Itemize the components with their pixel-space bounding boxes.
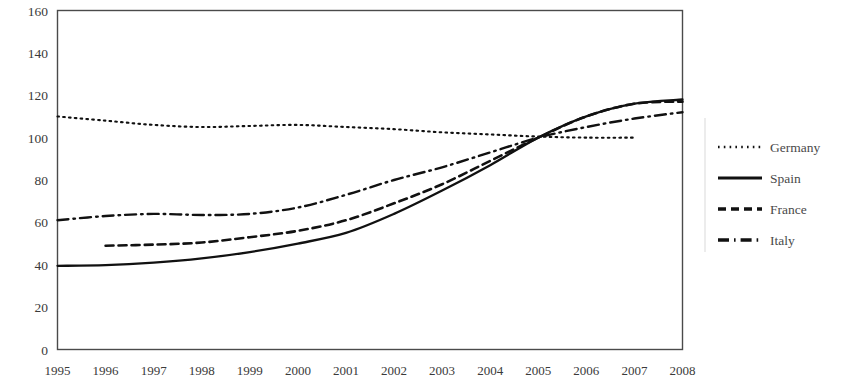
x-tick-label: 2008 — [670, 363, 696, 378]
line-chart: 160140120100806040200 199519961997199819… — [0, 0, 850, 392]
x-tick-label: 2001 — [333, 363, 359, 378]
y-tick-label: 120 — [28, 88, 49, 103]
chart-figure: 160140120100806040200 199519961997199819… — [0, 0, 850, 392]
y-tick-label: 80 — [35, 173, 49, 188]
y-tick-label: 40 — [35, 258, 49, 273]
x-tick-label: 2000 — [285, 363, 311, 378]
x-tick-label: 2006 — [573, 363, 600, 378]
y-tick-label: 140 — [28, 46, 49, 61]
x-tick-label: 2004 — [477, 363, 504, 378]
x-tick-label: 2005 — [525, 363, 551, 378]
x-tick-label: 2003 — [429, 363, 455, 378]
x-tick-label: 1995 — [45, 363, 71, 378]
y-tick-label: 0 — [41, 343, 48, 358]
x-tick-label: 2007 — [621, 363, 648, 378]
x-tick-label: 1998 — [189, 363, 215, 378]
legend-label-france: France — [770, 202, 807, 217]
x-tick-label: 1997 — [141, 363, 168, 378]
y-tick-label: 160 — [28, 4, 49, 19]
legend-label-germany: Germany — [770, 140, 820, 155]
y-tick-label: 60 — [35, 215, 49, 230]
x-tick-label: 1996 — [93, 363, 120, 378]
x-tick-label: 1999 — [237, 363, 263, 378]
y-tick-label: 20 — [35, 300, 49, 315]
y-tick-label: 100 — [28, 131, 49, 146]
legend-label-spain: Spain — [770, 171, 801, 186]
chart-background — [0, 0, 850, 392]
x-tick-label: 2002 — [381, 363, 407, 378]
legend-label-italy: Italy — [770, 233, 795, 248]
